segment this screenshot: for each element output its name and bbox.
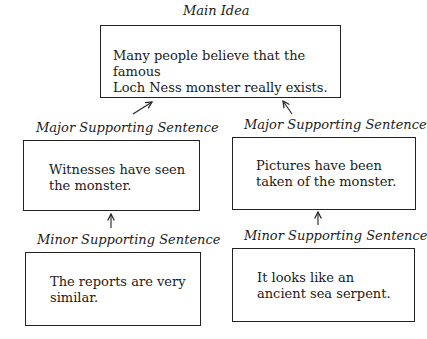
arrow-left-major-to-main [133,102,152,114]
left-minor-text: The reports are very similar. [50,274,186,306]
left-minor-label: Minor Supporting Sentence [37,232,220,247]
left-minor-box: The reports are very similar. [25,252,201,326]
right-minor-box: It looks like an ancient sea serpent. [232,248,415,322]
left-major-label: Major Supporting Sentence [36,120,219,135]
right-major-label: Major Supporting Sentence [244,117,427,132]
right-major-text: Pictures have been taken of the monster. [256,158,396,190]
left-major-text: Witnesses have seen the monster. [49,162,185,194]
right-minor-label: Minor Supporting Sentence [244,228,427,243]
arrow-right-major-to-main [283,101,292,114]
left-major-box: Witnesses have seen the monster. [23,140,200,211]
right-major-box: Pictures have been taken of the monster. [232,137,416,210]
right-minor-text: It looks like an ancient sea serpent. [257,270,391,302]
